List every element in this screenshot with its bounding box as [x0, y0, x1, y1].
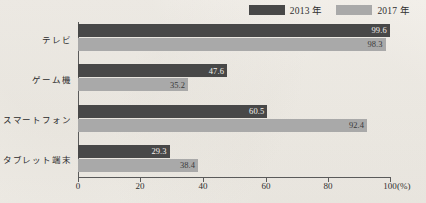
x-tick-label-40: 40	[199, 181, 208, 191]
x-tick-label-100: 100	[383, 181, 397, 191]
bar-terebi-2017: 98.3	[78, 38, 386, 51]
bar-group-gamek: 47.6 35.2	[78, 64, 391, 93]
bar-tablet-2017: 38.4	[78, 159, 198, 172]
x-axis-unit-label: (%)	[397, 181, 411, 191]
bar-gamek-2013: 47.6	[78, 64, 227, 77]
bar-tablet-2013: 29.3	[78, 145, 170, 158]
category-label-terebi: テレビ	[0, 24, 76, 53]
bar-gamek-2017: 35.2	[78, 78, 188, 91]
bar-value-label: 99.6	[371, 26, 389, 35]
x-tick-label-0: 0	[76, 181, 81, 191]
legend-swatch-2017	[336, 5, 372, 15]
bar-row-gamek-2013: 47.6	[78, 64, 391, 77]
category-label-gamek: ゲーム機	[0, 64, 76, 93]
bar-value-label: 92.4	[349, 121, 367, 130]
legend-swatch-2013	[249, 5, 285, 15]
category-label-smartphone: スマートフォン	[0, 105, 76, 134]
plot-area: 99.6 98.3 47.6 35.2	[78, 22, 391, 178]
bar-smartphone-2017: 92.4	[78, 119, 367, 132]
bar-value-label: 38.4	[180, 161, 198, 170]
category-axis-labels: テレビ ゲーム機 スマートフォン タブレット端末	[0, 22, 76, 178]
bar-value-label: 47.6	[209, 67, 227, 76]
bar-row-smartphone-2017: 92.4	[78, 119, 391, 132]
legend-label-2013: 2013 年	[290, 3, 323, 17]
bar-group-terebi: 99.6 98.3	[78, 24, 391, 53]
legend-label-2017: 2017 年	[377, 3, 410, 17]
legend-entry-2013: 2013 年	[249, 3, 323, 17]
x-tick-label-60: 60	[262, 181, 271, 191]
bar-value-label: 35.2	[170, 81, 188, 90]
x-tick-label-80: 80	[324, 181, 333, 191]
category-label-tablet: タブレット端末	[0, 145, 76, 174]
bar-row-terebi-2013: 99.6	[78, 24, 391, 37]
bar-groups: 99.6 98.3 47.6 35.2	[78, 22, 391, 178]
bar-value-label: 60.5	[249, 107, 267, 116]
bar-value-label: 29.3	[151, 147, 169, 156]
chart-legend: 2013 年 2017 年	[0, 3, 426, 17]
bar-group-tablet: 29.3 38.4	[78, 145, 391, 174]
page-bleed-through	[30, 194, 400, 203]
bar-terebi-2013: 99.6	[78, 24, 390, 37]
bar-smartphone-2013: 60.5	[78, 105, 267, 118]
bar-row-terebi-2017: 98.3	[78, 38, 391, 51]
bar-row-tablet-2013: 29.3	[78, 145, 391, 158]
bar-group-smartphone: 60.5 92.4	[78, 105, 391, 134]
bar-row-tablet-2017: 38.4	[78, 159, 391, 172]
x-axis-tick-labels: 0 20 40 60 80 100	[78, 181, 391, 195]
bar-row-gamek-2017: 35.2	[78, 78, 391, 91]
legend-entry-2017: 2017 年	[336, 3, 410, 17]
bar-row-smartphone-2013: 60.5	[78, 105, 391, 118]
bar-value-label: 98.3	[367, 40, 385, 49]
x-tick-label-20: 20	[136, 181, 145, 191]
grouped-bar-chart: 2013 年 2017 年 テレビ ゲーム機 スマートフォン タブレット端末 9…	[0, 0, 426, 203]
